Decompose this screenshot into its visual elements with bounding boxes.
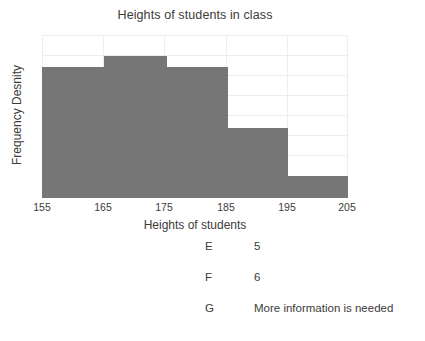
histogram-figure: Heights of students in class Frequency D… [0, 0, 425, 232]
answer-options-list: E 5 F 6 G More information is needed [0, 240, 425, 333]
option-letter: E [205, 240, 213, 252]
x-tick-label: 185 [206, 201, 246, 213]
option-text: 5 [254, 240, 260, 252]
gridline-vertical [347, 35, 348, 198]
gridline-horizontal [42, 35, 348, 36]
option-letter: F [205, 271, 212, 283]
answer-option-f[interactable]: F 6 [0, 271, 425, 302]
chart-title: Heights of students in class [0, 8, 390, 22]
answer-option-e[interactable]: E 5 [0, 240, 425, 271]
answer-option-g[interactable]: G More information is needed [0, 302, 425, 333]
histogram-bar [104, 56, 167, 198]
gridline-horizontal [42, 55, 348, 56]
histogram-bar [228, 128, 288, 198]
x-tick-label: 175 [144, 201, 184, 213]
option-text: 6 [254, 271, 260, 283]
x-axis-label: Heights of students [42, 218, 348, 232]
x-tick-label: 165 [83, 201, 123, 213]
option-letter: G [205, 302, 214, 314]
y-axis-label: Frequency Desnity [10, 40, 24, 190]
histogram-bar [167, 67, 228, 198]
x-tick-label: 205 [327, 201, 367, 213]
histogram-bar [288, 176, 348, 198]
plot-area [42, 35, 348, 198]
x-tick-label: 155 [22, 201, 62, 213]
x-tick-label: 195 [267, 201, 307, 213]
histogram-bar [42, 67, 104, 198]
option-text: More information is needed [254, 302, 393, 314]
